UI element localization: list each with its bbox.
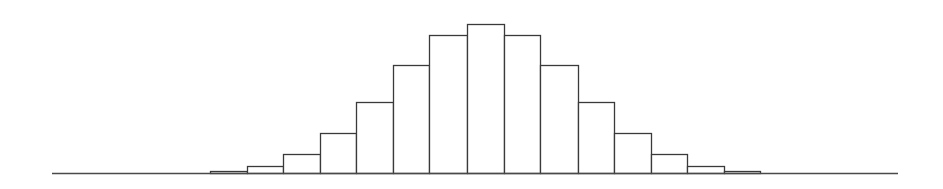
histogram-bar	[468, 25, 505, 174]
histogram-bar	[541, 66, 579, 174]
histogram-bar	[579, 103, 615, 174]
histogram-bar	[248, 167, 284, 174]
histogram-bar	[321, 134, 357, 174]
histogram-bar	[357, 103, 394, 174]
histogram-bar	[615, 134, 652, 174]
histogram-bar	[284, 155, 321, 174]
histogram-chart	[0, 0, 943, 189]
histogram-bar	[394, 66, 430, 174]
histogram-bar	[505, 36, 541, 174]
histogram-bar	[430, 36, 468, 174]
histogram-bars	[211, 25, 761, 174]
histogram-bar	[652, 155, 688, 174]
histogram-bar	[688, 167, 725, 174]
